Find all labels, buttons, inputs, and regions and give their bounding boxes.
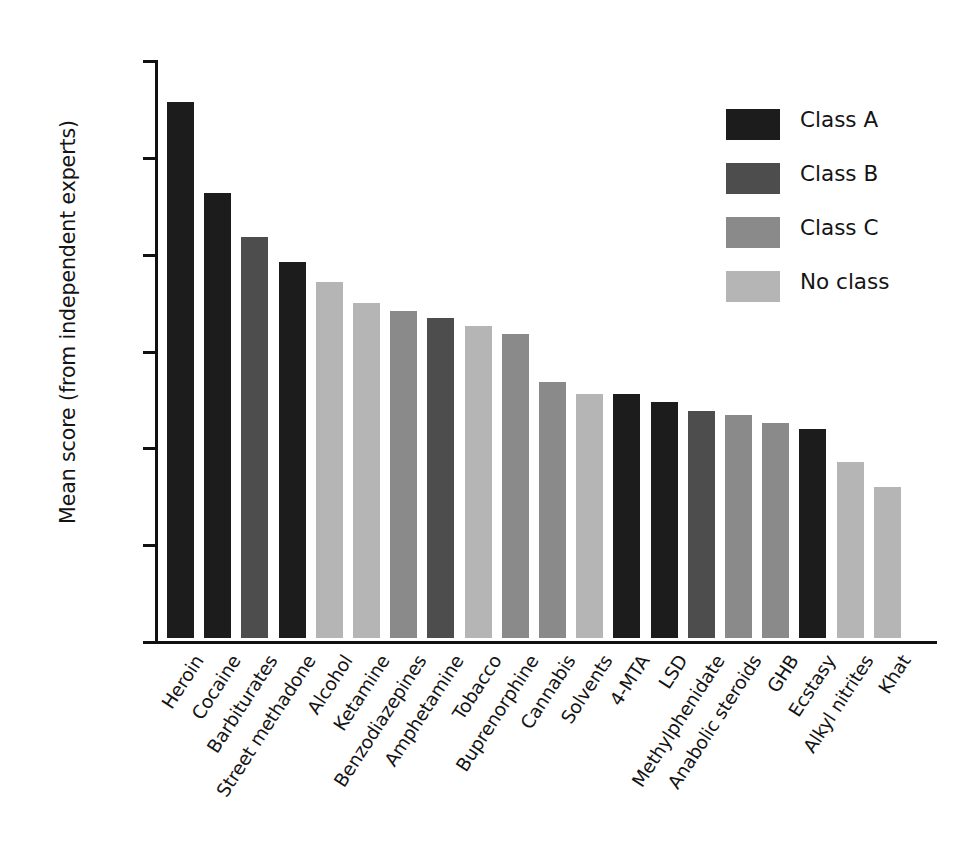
- y-axis-tick: [143, 254, 155, 257]
- y-axis-line: [155, 60, 158, 644]
- bar: [539, 382, 566, 638]
- bar: [204, 193, 231, 638]
- legend-label: Class B: [800, 161, 878, 186]
- bar: [279, 262, 306, 638]
- bar: [316, 282, 343, 638]
- legend-label: No class: [800, 269, 889, 294]
- legend-label: Class A: [800, 107, 878, 132]
- bar: [502, 334, 529, 638]
- legend-swatch: [726, 109, 780, 140]
- bar: [576, 394, 603, 638]
- bar: [688, 411, 715, 638]
- bar: [762, 423, 789, 638]
- bar: [651, 402, 678, 638]
- y-axis-tick: [143, 157, 155, 160]
- y-axis-tick: [143, 447, 155, 450]
- legend-swatch: [726, 163, 780, 194]
- y-axis-tick: [143, 60, 155, 63]
- bar: [725, 415, 752, 638]
- x-axis-tick-label: Khat: [874, 651, 914, 697]
- y-axis-tick: [143, 351, 155, 354]
- legend-swatch: [726, 217, 780, 248]
- bar: [427, 318, 454, 638]
- y-axis-tick: [143, 641, 155, 644]
- drug-harm-bar-chart: Mean score (from independent experts) 3.…: [0, 0, 970, 854]
- y-axis-title: Mean score (from independent experts): [56, 62, 80, 582]
- bar: [353, 303, 380, 638]
- y-axis-tick: [143, 544, 155, 547]
- legend-label: Class C: [800, 215, 878, 240]
- bar: [167, 102, 194, 638]
- plot-area: 3.02.52.01.51.00.50.0 HeroinCocaineBarbi…: [155, 60, 935, 641]
- x-axis-tick-label: LSD: [654, 651, 691, 692]
- bar: [799, 429, 826, 638]
- bar: [465, 326, 492, 638]
- bar: [837, 462, 864, 638]
- bar: [613, 394, 640, 638]
- bar: [390, 311, 417, 638]
- legend-swatch: [726, 271, 780, 302]
- bar: [241, 237, 268, 638]
- bar: [874, 487, 901, 638]
- x-axis-line: [155, 641, 937, 644]
